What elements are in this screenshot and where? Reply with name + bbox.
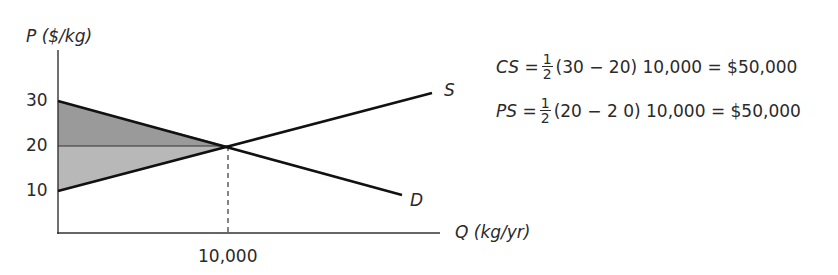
cs-fraction: 1 2: [542, 52, 553, 81]
supply-label: S: [444, 80, 455, 100]
producer-surplus-equation: PS = 1 2 (20 − 2 0) 10,000 = $50,000: [496, 96, 801, 125]
y-tick-30: 30: [26, 90, 48, 110]
surplus-chart: [0, 0, 838, 275]
ps-fraction: 1 2: [540, 96, 551, 125]
demand-label: D: [410, 190, 423, 210]
ps-rhs: (20 − 2 0) 10,000 = $50,000: [554, 101, 801, 121]
ps-frac-den: 2: [540, 111, 551, 125]
x-tick-10000: 10,000: [198, 246, 257, 266]
y-tick-10: 10: [26, 180, 48, 200]
consumer-surplus-equation: CS = 1 2 (30 − 20) 10,000 = $50,000: [496, 52, 797, 81]
cs-lhs: CS =: [496, 57, 539, 77]
y-axis-label: P ($/kg): [26, 26, 92, 46]
y-tick-20: 20: [26, 135, 48, 155]
cs-frac-num: 1: [542, 52, 553, 67]
x-axis-label: Q (kg/yr): [455, 222, 530, 242]
ps-lhs: PS =: [496, 101, 537, 121]
cs-frac-den: 2: [542, 67, 553, 81]
cs-rhs: (30 − 20) 10,000 = $50,000: [556, 57, 798, 77]
ps-frac-num: 1: [540, 96, 551, 111]
